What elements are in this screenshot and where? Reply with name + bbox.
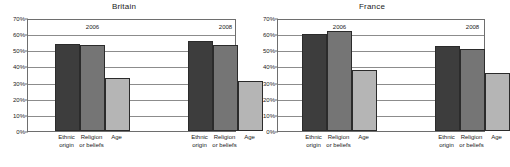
- category-label-line1: Religion: [79, 134, 103, 142]
- group-year-label: 2006: [333, 24, 346, 31]
- y-axis-tick-label: 10%: [13, 112, 25, 119]
- category-label-line1: Ethnic: [191, 134, 208, 142]
- y-axis-tick-label: 70%: [13, 16, 25, 23]
- y-axis-tick-label: 20%: [263, 96, 275, 103]
- plot-area: 0%10%20%30%40%50%60%70%20062008: [277, 19, 485, 132]
- category-labels: EthnicoriginReligionor beliefsAgeEthnico…: [27, 134, 236, 164]
- bar-britain-2006-ethnic-origin: [55, 44, 80, 131]
- y-axis-tick-label: 70%: [263, 16, 275, 23]
- x-axis-category-label: Ethnicorigin: [58, 134, 75, 149]
- plot-area: 0%10%20%30%40%50%60%70%20062008: [27, 19, 236, 132]
- y-axis-tick-label: 30%: [13, 80, 25, 87]
- bar-france-2008-ethnic-origin: [435, 46, 460, 131]
- bar-france-2006-religion-or-beliefs: [327, 31, 352, 131]
- category-label-line1: Religion: [459, 134, 483, 142]
- x-axis-category-label: Religionor beliefs: [459, 134, 483, 149]
- y-axis-tick-label: 60%: [263, 32, 275, 39]
- group-year-label: 2006: [86, 24, 99, 31]
- x-axis-category-label: Age: [111, 134, 122, 142]
- category-label-line2: origin: [58, 142, 75, 150]
- category-label-line1: Religion: [326, 134, 350, 142]
- bar-britain-2006-religion-or-beliefs: [80, 45, 105, 131]
- x-axis-category-label: Age: [358, 134, 369, 142]
- category-label-line2: or beliefs: [212, 142, 236, 150]
- bar-france-2008-age: [485, 73, 510, 131]
- y-axis-tick-mark: [275, 132, 278, 133]
- y-axis-tick-label: 20%: [13, 96, 25, 103]
- y-axis-tick-label: 40%: [13, 64, 25, 71]
- x-axis-category-label: Religionor beliefs: [326, 134, 350, 149]
- y-axis-tick-label: 0%: [266, 129, 275, 136]
- y-axis-tick-label: 30%: [263, 80, 275, 87]
- group-year-label: 2008: [219, 24, 232, 31]
- y-axis-tick-label: 10%: [263, 112, 275, 119]
- bar-france-2006-age: [352, 70, 377, 131]
- category-label-line2: or beliefs: [326, 142, 350, 150]
- panel-title: Britain: [0, 1, 248, 12]
- category-label-line1: Ethnic: [438, 134, 455, 142]
- bars-layer: 20062008: [28, 20, 235, 131]
- category-label-line1: Ethnic: [305, 134, 322, 142]
- category-label-line2: origin: [191, 142, 208, 150]
- x-axis-category-label: Ethnicorigin: [191, 134, 208, 149]
- bar-france-2006-ethnic-origin: [302, 34, 327, 131]
- group-year-label: 2008: [466, 24, 479, 31]
- bar-britain-2008-ethnic-origin: [188, 41, 213, 131]
- x-axis-category-label: Age: [491, 134, 502, 142]
- x-axis-category-label: Ethnicorigin: [438, 134, 455, 149]
- panel-title: France: [248, 1, 496, 12]
- chart-panel-britain: Britain0%10%20%30%40%50%60%70%20062008Et…: [0, 0, 248, 167]
- bar-britain-2006-age: [105, 78, 130, 131]
- bar-britain-2008-religion-or-beliefs: [213, 45, 238, 131]
- x-axis-category-label: Religionor beliefs: [79, 134, 103, 149]
- category-label-line1: Age: [358, 134, 369, 142]
- category-label-line2: origin: [438, 142, 455, 150]
- bars-layer: 20062008: [278, 20, 484, 131]
- category-label-line2: or beliefs: [79, 142, 103, 150]
- y-axis-tick-label: 40%: [263, 64, 275, 71]
- bar-france-2008-religion-or-beliefs: [460, 49, 485, 131]
- y-axis-tick-mark: [25, 132, 28, 133]
- x-axis-category-label: Ethnicorigin: [305, 134, 322, 149]
- y-axis-tick-label: 50%: [263, 48, 275, 55]
- y-axis-tick-label: 0%: [16, 129, 25, 136]
- category-labels: EthnicoriginReligionor beliefsAgeEthnico…: [277, 134, 485, 164]
- y-axis-tick-label: 50%: [13, 48, 25, 55]
- category-label-line1: Age: [111, 134, 122, 142]
- category-label-line1: Age: [491, 134, 502, 142]
- category-label-line1: Religion: [212, 134, 236, 142]
- category-label-line1: Ethnic: [58, 134, 75, 142]
- chart-panel-france: France0%10%20%30%40%50%60%70%20062008Eth…: [248, 0, 496, 167]
- x-axis-category-label: Religionor beliefs: [212, 134, 236, 149]
- category-label-line2: or beliefs: [459, 142, 483, 150]
- y-axis-tick-label: 60%: [13, 32, 25, 39]
- category-label-line2: origin: [305, 142, 322, 150]
